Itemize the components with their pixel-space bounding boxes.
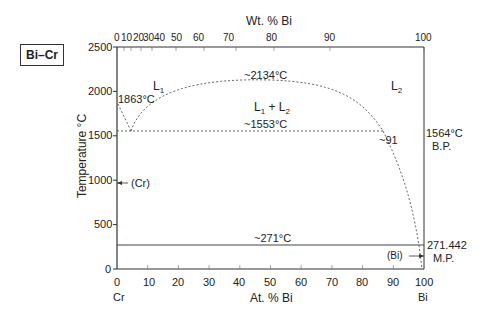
- x-tick: 30: [203, 277, 215, 288]
- bottom-axis-title: At. % Bi: [250, 292, 293, 304]
- bp-label: B.P.: [432, 141, 451, 152]
- x-tick: 50: [264, 277, 276, 288]
- top-tick: 40: [154, 33, 165, 43]
- x-tick: 60: [295, 277, 307, 288]
- y-tick: 1000: [88, 175, 112, 186]
- mp-label: M.P.: [433, 253, 454, 264]
- eutectic-temp-label: ~271°C: [254, 233, 291, 244]
- y-tick: 2500: [88, 42, 112, 53]
- top-tick: 10: [121, 33, 132, 43]
- y-tick: 2000: [88, 86, 112, 97]
- critical-temp-label: ~2134°C: [244, 70, 287, 81]
- left-element: Cr: [113, 292, 125, 303]
- y-tick: 1500: [88, 130, 112, 141]
- two-liquid-label: L1 + L2: [254, 101, 290, 116]
- top-tick: 70: [223, 33, 234, 43]
- x-tick: 0: [114, 277, 120, 288]
- mp-value: 271.442: [427, 240, 467, 251]
- top-tick: 60: [193, 33, 204, 43]
- y-tick: 500: [94, 219, 112, 230]
- x-tick: 40: [233, 277, 245, 288]
- right-element: Bi: [418, 292, 428, 303]
- mp-cr-label: 1863°C: [118, 94, 155, 105]
- x-tick: 80: [356, 277, 368, 288]
- y-axis-title: Temperature °C: [76, 106, 88, 206]
- bp-value: 1564°C: [426, 128, 463, 139]
- monotectic-temp-label: ~1553°C: [244, 119, 287, 130]
- l2-label: L2: [391, 80, 402, 95]
- top-axis-title: Wt. % Bi: [246, 15, 292, 27]
- l1-label: L1: [153, 80, 164, 95]
- x-tick: 10: [143, 277, 155, 288]
- top-tick: 30: [143, 33, 154, 43]
- top-tick: 0: [114, 33, 120, 43]
- x-tick: 70: [326, 277, 338, 288]
- phase-diagram: [0, 0, 487, 312]
- bi-phase-label: (Bi): [387, 251, 403, 261]
- top-tick: 80: [266, 33, 277, 43]
- x-tick: 100: [415, 277, 433, 288]
- y-tick: 0: [105, 264, 111, 275]
- cr-phase-label: (Cr): [131, 178, 150, 189]
- top-tick: 90: [324, 33, 335, 43]
- top-tick: 50: [171, 33, 182, 43]
- top-tick: 100: [415, 33, 432, 43]
- x-tick: 90: [387, 277, 399, 288]
- monotectic-comp-label: ~91: [379, 135, 398, 146]
- x-tick: 20: [172, 277, 184, 288]
